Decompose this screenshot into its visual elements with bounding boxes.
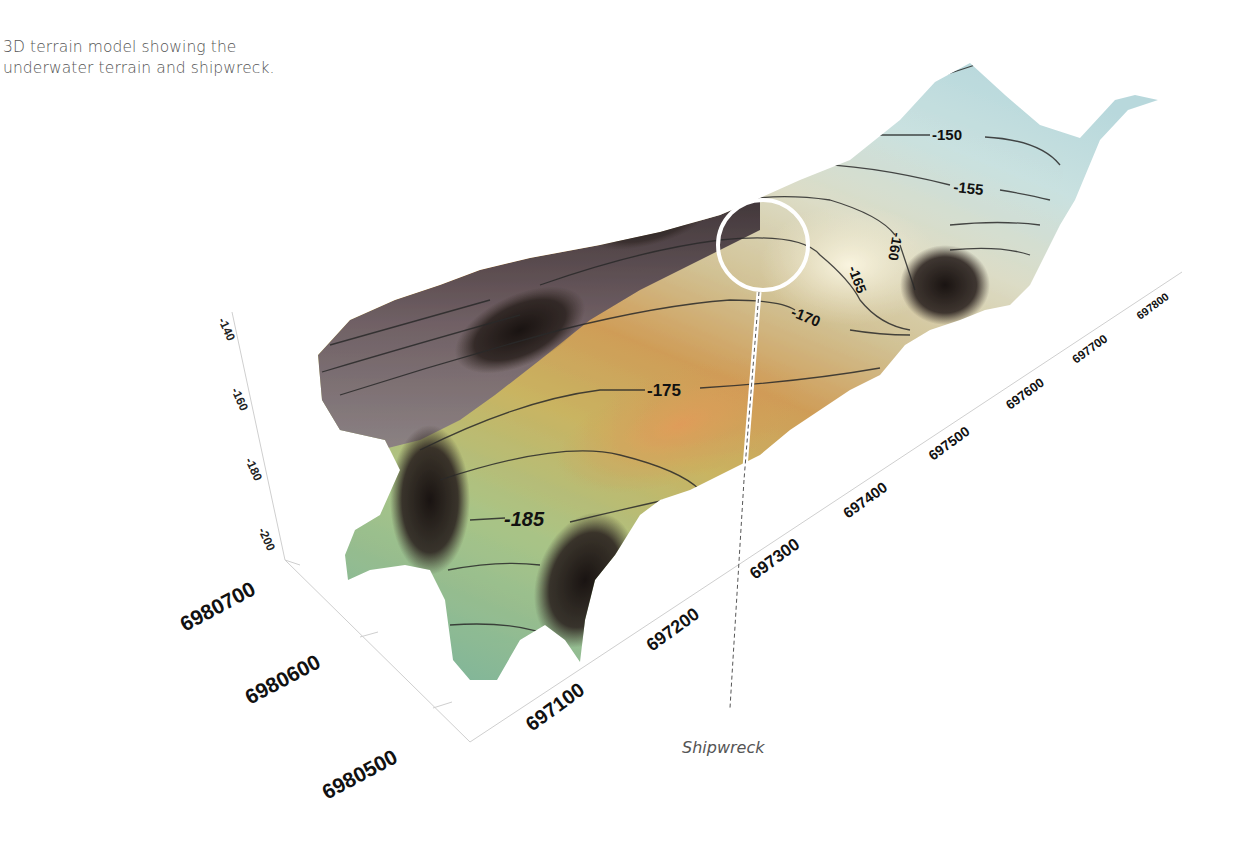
x-tick-label: 697100 (521, 678, 588, 735)
contour-label-150: -150 (932, 126, 962, 143)
terrain-surface (300, 50, 1180, 700)
contour-label-185: -185 (504, 508, 545, 530)
x-tick-label: 697300 (746, 535, 803, 584)
shipwreck-label: Shipwreck (682, 738, 764, 757)
z-tick-label: -180 (242, 455, 265, 483)
terrain-3d-plot: -150 -155 -160 -165 -170 -175 -185 -140 … (0, 0, 1233, 846)
y-tick-label: 6980600 (241, 650, 324, 709)
y-tick-label: 6980500 (318, 745, 401, 804)
z-tick-label: -140 (215, 315, 238, 343)
y-axis-ticks: 6980700 6980600 6980500 (176, 577, 401, 804)
x-tick-label: 697400 (840, 478, 890, 521)
x-tick-label: 697800 (1134, 290, 1171, 321)
contour-label-155: -155 (953, 178, 985, 198)
z-tick-label: -200 (255, 525, 278, 553)
y-tick-label: 6980700 (176, 577, 259, 636)
z-axis-ticks: -140 -160 -180 -200 (215, 315, 278, 553)
z-tick-label: -160 (228, 385, 251, 413)
contour-label-175: -175 (647, 381, 681, 400)
z-axis-line (232, 312, 285, 560)
x-tick-label: 697200 (643, 604, 703, 655)
x-tick-label: 697500 (925, 423, 972, 464)
callout-leader-dashed-lower (730, 480, 744, 708)
x-tick-label: 697700 (1070, 331, 1111, 366)
x-tick-label: 697600 (1003, 375, 1047, 413)
